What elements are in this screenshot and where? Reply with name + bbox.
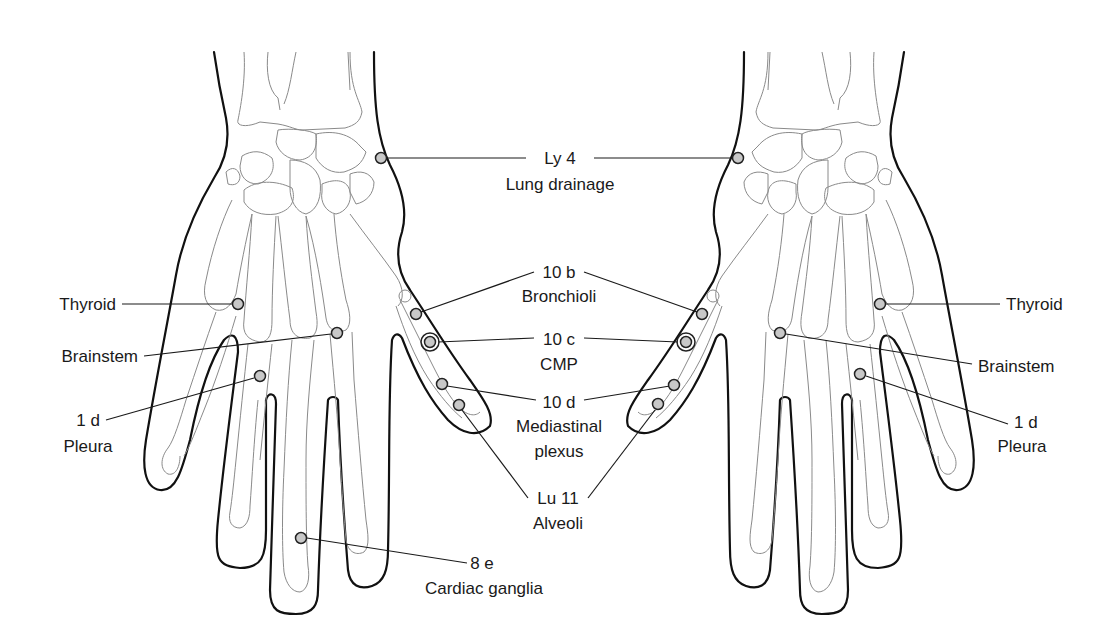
label-10d-code: 10 d — [542, 393, 575, 412]
label-lu11-code: Lu 11 — [537, 489, 578, 508]
leader-10d-left — [447, 386, 536, 400]
leader-10c-left — [438, 338, 534, 342]
label-1d-name-right: Pleura — [997, 437, 1047, 456]
label-10b-name: Bronchioli — [522, 287, 597, 306]
labels: Ly 4 Lung drainage 10 b Bronchioli 10 c … — [59, 149, 1062, 598]
point-ly4-left — [376, 153, 387, 164]
leader-10c-right — [584, 338, 678, 342]
point-10d-right — [669, 380, 680, 391]
label-1d-code-left: 1 d — [76, 411, 100, 430]
label-10d-name-2: plexus — [534, 442, 583, 461]
point-brainstem-right — [775, 328, 786, 339]
label-10c-code: 10 c — [543, 330, 576, 349]
left-hand-outline — [144, 52, 491, 614]
label-1d-code-right: 1 d — [1014, 413, 1038, 432]
hand-reflexology-diagram: Ly 4 Lung drainage 10 b Bronchioli 10 c … — [0, 0, 1115, 636]
point-brainstem-left — [332, 328, 343, 339]
point-thyroid-right — [875, 299, 886, 310]
point-10b-left — [411, 309, 422, 320]
label-brainstem-right: Brainstem — [978, 357, 1055, 376]
leader-10b-left — [421, 272, 534, 312]
point-1d-right — [855, 369, 866, 380]
point-1d-left — [255, 371, 266, 382]
right-hand-outline — [627, 52, 974, 614]
leader-10b-right — [584, 272, 697, 312]
label-10d-name-1: Mediastinal — [516, 417, 602, 436]
label-8e-code: 8 e — [470, 554, 494, 573]
point-8e-left — [296, 533, 307, 544]
point-10d-left — [437, 379, 448, 390]
label-ly4-code: Ly 4 — [544, 149, 576, 168]
point-thyroid-left — [233, 299, 244, 310]
point-10c-left — [425, 337, 436, 348]
leader-brainstem-right — [786, 334, 972, 364]
right-hand — [627, 52, 974, 614]
point-lu11-right — [653, 399, 664, 410]
label-lu11-name: Alveoli — [533, 514, 583, 533]
label-brainstem-left: Brainstem — [61, 347, 138, 366]
label-ly4-name: Lung drainage — [506, 175, 615, 194]
label-thyroid-right: Thyroid — [1006, 295, 1063, 314]
point-lu11-left — [454, 400, 465, 411]
label-8e-name: Cardiac ganglia — [425, 579, 544, 598]
point-10c-right — [681, 337, 692, 348]
label-1d-name-left: Pleura — [63, 437, 113, 456]
label-10b-code: 10 b — [542, 263, 575, 282]
diagram-canvas: Ly 4 Lung drainage 10 b Bronchioli 10 c … — [0, 0, 1115, 636]
label-10c-name: CMP — [540, 355, 578, 374]
label-thyroid-left: Thyroid — [59, 295, 116, 314]
point-ly4-right — [733, 153, 744, 164]
point-10b-right — [697, 309, 708, 320]
left-hand — [144, 52, 491, 614]
